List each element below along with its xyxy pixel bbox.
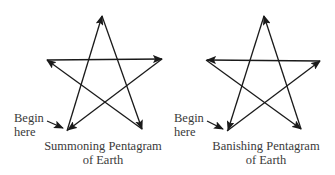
begin-label-line1: Begin — [174, 111, 204, 125]
summoning-pentagram — [47, 16, 162, 131]
begin-pointer-arrow — [207, 121, 223, 129]
stroke-2-arrow — [102, 16, 142, 129]
stroke-3-arrow — [47, 60, 142, 129]
summoning-caption: Summoning Pentagram of Earth — [38, 139, 168, 167]
stroke-4-arrow — [47, 59, 162, 60]
stroke-1-arrow — [67, 16, 102, 131]
begin-label-line2: here — [14, 125, 44, 139]
begin-label-line1: Begin — [14, 111, 44, 125]
banishing-begin-label: Begin here — [174, 111, 204, 139]
stroke-5-arrow — [68, 59, 162, 130]
stroke-1-arrow — [227, 61, 320, 131]
caption-line2: of Earth — [38, 153, 168, 167]
stroke-4-arrow — [264, 16, 301, 129]
stroke-5-arrow — [228, 16, 264, 130]
caption-line1: Summoning Pentagram — [38, 139, 168, 153]
begin-pointer-arrow — [47, 121, 63, 128]
begin-label-line2: here — [174, 125, 204, 139]
banishing-pentagram — [206, 16, 320, 131]
banishing-caption: Banishing Pentagram of Earth — [204, 139, 328, 167]
caption-line2: of Earth — [204, 153, 328, 167]
summoning-begin-label: Begin here — [14, 111, 44, 139]
caption-line1: Banishing Pentagram — [204, 139, 328, 153]
stroke-3-arrow — [206, 60, 301, 129]
stroke-2-arrow — [207, 60, 320, 61]
